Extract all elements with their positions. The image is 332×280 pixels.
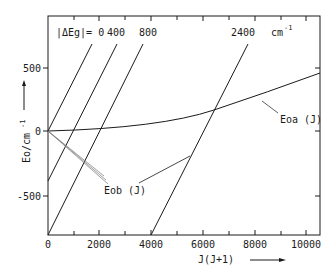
- y-tick-500: 500: [23, 63, 41, 74]
- label-800: 800: [139, 27, 157, 38]
- y-tick-m500: -500: [17, 191, 41, 202]
- leader-Eob: [139, 156, 190, 183]
- label-400: 400: [107, 27, 125, 38]
- svg-text:-1: -1: [19, 120, 27, 128]
- label-Eob: Eob (J): [104, 185, 146, 196]
- label-cm: cm: [271, 27, 283, 38]
- svg-text:Eo/cm: Eo/cm: [21, 133, 32, 163]
- plot-frame: [48, 16, 320, 235]
- x-ticks: [43, 16, 320, 235]
- y-tick-0: 0: [35, 126, 41, 137]
- label-2400: 2400: [231, 27, 255, 38]
- legend-dEg-0: |ΔEg|= 0: [56, 27, 104, 39]
- leader-Eoa: [262, 101, 278, 113]
- x-tick-10000: 10000: [291, 239, 321, 250]
- line-dEg-2400: [151, 44, 248, 235]
- x-tick-0: 0: [45, 239, 51, 250]
- x-tick-8000: 8000: [243, 239, 267, 250]
- chart: 0 2000 4000 6000 8000 10000 500 0 -500 E…: [0, 0, 332, 280]
- x-arrow-head-icon: [279, 258, 286, 262]
- label-Eoa: Eoa (J): [280, 114, 322, 125]
- label-cm-sup: -1: [284, 24, 292, 32]
- x-tick-4000: 4000: [139, 239, 163, 250]
- Eob-leaders-thin: [48, 131, 108, 184]
- x-axis-label: J(J+1): [198, 254, 234, 265]
- y-axis-label: Eo/cm -1: [19, 120, 32, 163]
- x-tick-2000: 2000: [87, 239, 111, 250]
- line-dEg-0: [48, 44, 92, 131]
- line-dEg-800: [48, 44, 143, 235]
- x-tick-6000: 6000: [191, 239, 215, 250]
- y-arrow-head-icon: [22, 80, 26, 86]
